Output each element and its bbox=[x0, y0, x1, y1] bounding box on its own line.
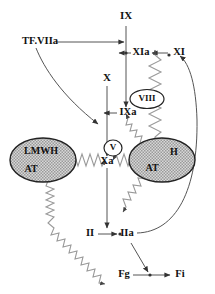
junction-dot-xi bbox=[167, 53, 170, 56]
node-label-ix: IX bbox=[120, 9, 132, 21]
lmwh-at-label-line2: AT bbox=[24, 163, 37, 174]
cofactor-label-viii: VIII bbox=[138, 93, 156, 103]
junction-dot-fibrin bbox=[148, 273, 151, 276]
junction-dot-x-ixa bbox=[105, 111, 108, 114]
node-label-x: X bbox=[103, 71, 111, 83]
cofactor-label-v: V bbox=[110, 142, 117, 152]
node-label-iia: IIa bbox=[120, 227, 134, 238]
node-label-xi: XI bbox=[173, 46, 185, 57]
inhibition-h-at-to-iia bbox=[123, 174, 148, 212]
inhibition-h-at-to-ixa bbox=[126, 114, 145, 146]
node-label-xa: Xa bbox=[101, 155, 115, 166]
heparin-at-label-line1: H bbox=[170, 146, 178, 157]
heparin-at-complex-ellipse bbox=[129, 138, 195, 182]
inhibition-lmwh-at-to-iia bbox=[44, 176, 105, 284]
node-label-fi: Fi bbox=[175, 268, 184, 279]
heparin-at-label-line2: AT bbox=[145, 162, 158, 173]
lmwh-at-label-line1: LMWH bbox=[24, 145, 58, 156]
node-label-xia: XIa bbox=[133, 46, 151, 57]
arrow-iia-to-fibrin-activation bbox=[131, 243, 148, 272]
node-label-fg: Fg bbox=[118, 268, 130, 279]
coagulation-cascade-diagram: IX TF.VIIa XIa XI X VIII IXa V Xa LMWH A… bbox=[0, 0, 215, 294]
node-label-tf-viia: TF.VIIa bbox=[22, 35, 59, 46]
junction-dot-ix-xia bbox=[124, 51, 127, 54]
node-label-ii: II bbox=[86, 227, 94, 238]
node-label-ixa: IXa bbox=[120, 106, 138, 117]
diagram-canvas: IX TF.VIIa XIa XI X VIII IXa V Xa LMWH A… bbox=[0, 0, 215, 294]
arrow-tfviia-to-x-activation bbox=[36, 48, 98, 124]
